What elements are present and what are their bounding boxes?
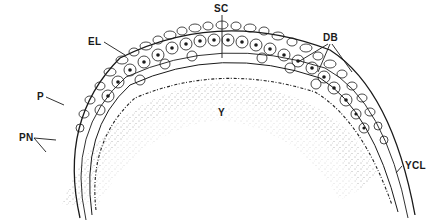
label-y: Y — [218, 108, 225, 118]
diagram-figure: SC EL DB P Y PN YCL — [0, 0, 442, 224]
label-ycl: YCL — [405, 161, 426, 171]
label-p: P — [37, 92, 44, 102]
label-sc: SC — [214, 4, 229, 14]
yolk-stipple — [62, 82, 378, 205]
label-db: DB — [323, 33, 338, 43]
label-pn: PN — [19, 133, 34, 143]
label-el: EL — [88, 37, 101, 47]
